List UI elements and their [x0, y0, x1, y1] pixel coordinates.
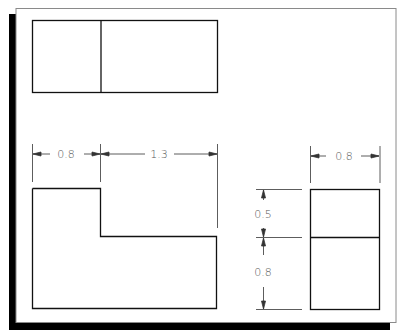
orthographic-drawing: 0.8 1.3 0.8 0.5 0.8: [0, 0, 404, 336]
dim-side-upper-height: 0.5: [254, 208, 272, 221]
dim-side-lower-height: 0.8: [254, 266, 272, 279]
dim-side-width: 0.8: [335, 150, 353, 163]
sheet-shadow-bottom: [9, 323, 390, 330]
dim-front-right-width: 1.3: [150, 148, 168, 161]
dim-front-left-width: 0.8: [57, 148, 75, 161]
sheet-shadow-left: [9, 14, 16, 330]
drawing-sheet: [16, 9, 396, 323]
